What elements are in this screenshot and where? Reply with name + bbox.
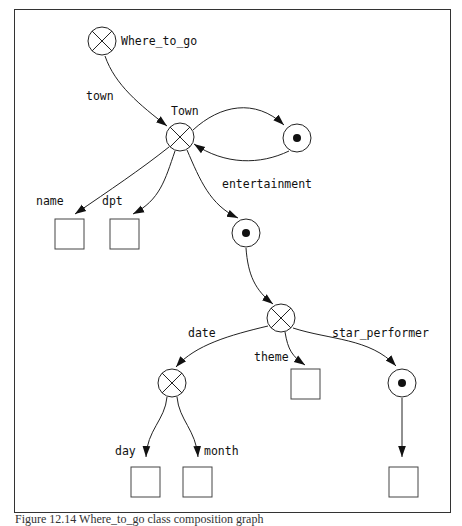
node-star-performer-reference [388,369,416,397]
label-edge-theme: theme [254,350,289,364]
leaf-star-performer [389,467,418,497]
edge-town-to-ref [193,108,284,130]
label-edge-dpt: dpt [102,194,123,208]
label-edge-star-performer: star_performer [332,326,429,340]
edge-dpt [133,151,175,214]
edge-day [146,397,167,457]
node-town-reference [283,124,311,152]
edge-town [105,56,167,126]
composition-graph: Where_to_go Town town entertainment name… [0,0,462,526]
edge-ref-to-town [194,144,289,161]
label-edge-name: name [36,194,64,208]
leaf-name [55,219,84,249]
leaf-dpt [110,219,139,249]
node-entertainment-reference [232,219,260,247]
edges [75,56,402,457]
node-town [166,123,194,151]
leaf-day [131,467,160,497]
edge-month [177,397,198,457]
label-edge-day: day [115,444,136,458]
edge-ref-to-entertainment [246,248,273,304]
label-town-node: Town [171,104,199,118]
node-where-to-go [88,27,116,55]
label-edge-entertainment: entertainment [222,177,312,191]
leaf-month [183,467,212,497]
node-entertainment [267,304,295,332]
figure-caption: Figure 12.14 Where_to_go class compositi… [15,512,263,526]
leaf-theme [291,369,320,399]
label-edge-month: month [204,444,239,458]
label-edge-town: town [86,89,114,103]
label-edge-date: date [188,326,216,340]
node-date [158,369,186,397]
label-where-to-go: Where_to_go [121,34,197,48]
